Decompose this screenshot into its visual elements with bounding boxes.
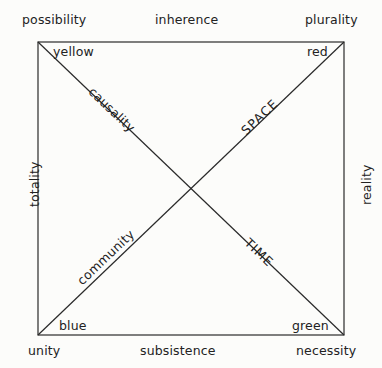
outer-label-possibility: possibility <box>22 12 86 27</box>
corner-label-green: green <box>292 318 329 333</box>
outer-label-totality: totality <box>27 161 42 207</box>
corner-label-blue: blue <box>59 318 87 333</box>
outer-label-reality: reality <box>359 164 374 205</box>
outer-label-plurality: plurality <box>305 12 358 27</box>
outer-label-subsistence: subsistence <box>140 343 216 358</box>
outer-label-unity: unity <box>28 343 60 358</box>
outer-label-necessity: necessity <box>296 343 356 358</box>
corner-label-red: red <box>307 44 328 59</box>
outer-label-inherence: inherence <box>155 12 218 27</box>
figure-canvas: possibility inherence plurality unity su… <box>0 0 382 368</box>
corner-label-yellow: yellow <box>53 44 94 59</box>
